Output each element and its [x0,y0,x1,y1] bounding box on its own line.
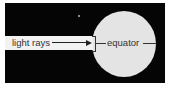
star-dot [78,15,80,17]
light-rays-arrow-shaft [52,42,88,43]
incidence-bracket [92,36,96,52]
equator-line-right [143,43,156,44]
light-rays-label: light rays [12,37,50,49]
equator-line-left [95,43,106,44]
equator-label: equator [107,37,139,49]
